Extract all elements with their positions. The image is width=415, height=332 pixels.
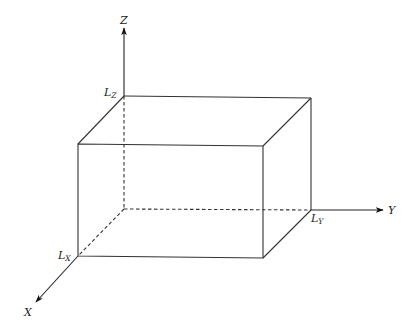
edge-bottom-right-depth — [263, 210, 311, 258]
ly-base: L — [310, 212, 318, 225]
hidden-edges — [78, 96, 311, 256]
lx-base: L — [57, 249, 65, 262]
y-axis-label: Y — [388, 204, 397, 217]
hidden-edge-y — [124, 209, 311, 210]
edge-top-right-depth — [263, 98, 311, 146]
lz-sub: Z — [110, 91, 117, 100]
lz-base: L — [103, 86, 111, 99]
hidden-edge-x — [78, 209, 124, 256]
edge-top-left-depth — [78, 96, 124, 144]
axes — [36, 28, 383, 302]
box-edges — [78, 96, 311, 258]
box-diagram: Z Y X LZ LY LX — [0, 0, 415, 332]
ly-sub: Y — [318, 217, 324, 226]
edge-back-top — [124, 96, 311, 98]
lz-label: LZ — [103, 86, 117, 100]
lx-sub: X — [64, 254, 71, 263]
x-axis-label: X — [23, 306, 33, 319]
front-face — [78, 144, 263, 258]
z-axis-label: Z — [119, 14, 128, 27]
ly-label: LY — [310, 212, 324, 226]
lx-label: LX — [57, 249, 71, 263]
x-axis — [36, 256, 78, 302]
